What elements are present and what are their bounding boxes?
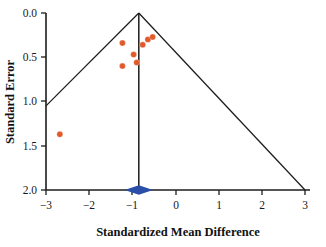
study-data-point bbox=[57, 131, 63, 137]
x-ticklabel-5: 2 bbox=[259, 199, 265, 211]
funnel-left-edge bbox=[46, 13, 139, 106]
study-data-point bbox=[134, 60, 140, 66]
study-data-point bbox=[131, 52, 137, 58]
y-ticklabel-2: 1.0 bbox=[23, 95, 38, 107]
y-ticklabel-0: 0.0 bbox=[23, 7, 38, 19]
x-axis-ticklabels: −3 −2 −1 0 1 2 3 bbox=[40, 199, 308, 211]
y-ticklabel-4: 2.0 bbox=[23, 184, 38, 196]
y-axis-ticklabels: 0.0 0.5 1.0 1.5 2.0 bbox=[23, 7, 38, 196]
x-ticklabel-4: 1 bbox=[216, 199, 222, 211]
x-ticklabel-0: −3 bbox=[40, 199, 52, 211]
x-ticklabel-3: 0 bbox=[173, 199, 179, 211]
y-ticklabel-3: 1.5 bbox=[23, 140, 38, 152]
study-data-point bbox=[150, 34, 156, 40]
study-points-layer bbox=[57, 34, 156, 137]
funnel-plot-figure: 0.0 0.5 1.0 1.5 2.0 −3 −2 −1 0 1 2 3 bbox=[0, 0, 326, 247]
funnel-plot-canvas: 0.0 0.5 1.0 1.5 2.0 −3 −2 −1 0 1 2 3 bbox=[0, 0, 326, 247]
study-data-point bbox=[119, 63, 125, 69]
funnel-contour-group bbox=[46, 13, 305, 190]
study-data-point bbox=[140, 42, 146, 48]
study-data-point bbox=[119, 40, 125, 46]
x-ticklabel-1: −2 bbox=[83, 199, 95, 211]
y-axis-title: Standard Error bbox=[3, 59, 17, 144]
y-ticklabel-1: 0.5 bbox=[23, 51, 38, 63]
x-ticklabel-2: −1 bbox=[126, 199, 138, 211]
x-axis-title: Standardized Mean Difference bbox=[96, 225, 260, 239]
summary-effect-diamond bbox=[125, 185, 153, 195]
funnel-right-edge bbox=[139, 13, 305, 190]
x-ticklabel-6: 3 bbox=[302, 199, 308, 211]
